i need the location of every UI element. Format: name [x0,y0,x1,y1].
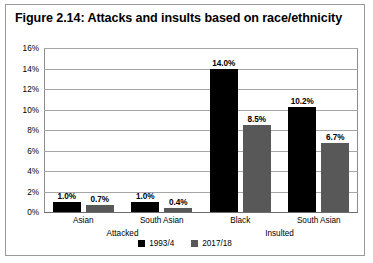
chart-plot-area: 0%2%4%6%8%10%12%14%16% 1.0%0.7%1.0%0.4%1… [44,48,358,212]
y-axis-tick-label: 4% [27,167,39,176]
bar [86,205,114,212]
y-axis-tick-label: 12% [23,85,39,94]
bar-value-label: 0.7% [90,195,109,204]
bar [131,202,159,212]
bar [164,208,192,212]
chart-legend: 1993/42017/18 [6,239,364,248]
legend-item: 2017/18 [191,239,232,248]
category-label: Asian [73,216,93,225]
legend-swatch-icon [138,240,145,247]
bar [243,125,271,212]
bar [288,107,316,212]
legend-swatch-icon [191,240,198,247]
y-axis-tick-label: 6% [27,147,39,156]
y-axis-tick-label: 0% [27,208,39,217]
bar-value-label: 8.5% [247,115,266,124]
bar [210,69,238,213]
figure-container: Figure 2.14: Attacks and insults based o… [5,4,365,256]
group-label: Insulted [265,229,294,238]
y-axis-tick-label: 16% [23,44,39,53]
legend-item: 1993/4 [138,239,174,248]
bars-layer: 1.0%0.7%1.0%0.4%14.0%8.5%10.2%6.7% [44,48,358,212]
legend-label: 2017/18 [202,239,232,248]
bar-value-label: 14.0% [212,59,235,68]
bar-value-label: 6.7% [326,133,345,142]
bar-value-label: 0.4% [169,198,188,207]
figure-title: Figure 2.14: Attacks and insults based o… [15,11,342,25]
group-label: Attacked [107,229,139,238]
y-axis-tick-label: 14% [23,65,39,74]
category-label: South Asian [140,216,184,225]
legend-label: 1993/4 [149,239,174,248]
bar [321,143,349,212]
bar-value-label: 1.0% [57,192,76,201]
category-label: Black [230,216,250,225]
y-axis-tick-label: 10% [23,106,39,115]
bar [53,202,81,212]
y-axis-tick-label: 2% [27,188,39,197]
bar-value-label: 1.0% [136,192,155,201]
y-axis-tick-label: 8% [27,126,39,135]
category-label: South Asian [297,216,341,225]
gridline [44,212,358,213]
bar-value-label: 10.2% [291,97,314,106]
